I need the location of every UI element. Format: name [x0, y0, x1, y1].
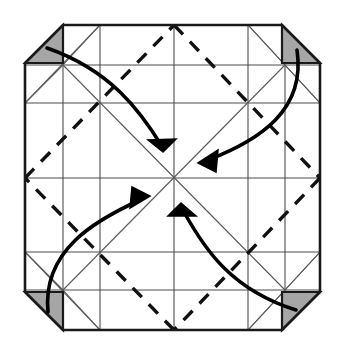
origami-diagram-figure: Origami crease pattern step: four corner…: [0, 0, 343, 355]
origami-crease-pattern-svg: [0, 0, 343, 355]
